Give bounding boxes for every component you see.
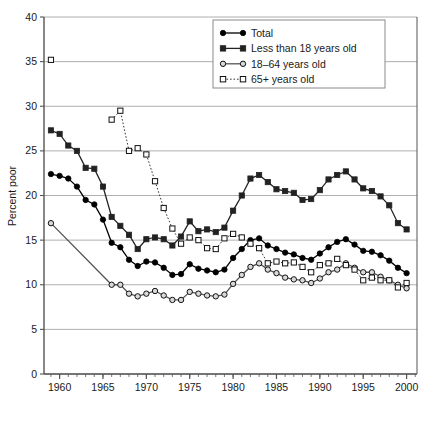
y-tick-label: 5 — [31, 323, 37, 335]
data-point — [135, 263, 140, 268]
x-tick-label: 1970 — [135, 381, 159, 393]
y-tick-label: 10 — [25, 278, 37, 290]
data-point — [187, 262, 192, 267]
data-point — [282, 250, 287, 255]
data-point — [309, 196, 314, 201]
data-point — [161, 205, 166, 210]
data-point — [248, 176, 253, 181]
data-point — [352, 242, 357, 247]
data-point — [309, 270, 314, 275]
data-point — [152, 288, 157, 293]
data-point — [187, 219, 192, 224]
x-tick-label: 1990 — [308, 381, 332, 393]
data-point — [300, 264, 305, 269]
data-point — [326, 261, 331, 266]
data-point — [213, 229, 218, 234]
data-point — [100, 184, 105, 189]
data-point — [291, 190, 296, 195]
x-tick-label: 2000 — [395, 381, 419, 393]
data-point — [326, 270, 331, 275]
y-axis-title: Percent poor — [6, 165, 18, 226]
legend-label: Total — [251, 27, 273, 39]
data-point — [395, 221, 400, 226]
data-point — [170, 226, 175, 231]
data-point — [126, 148, 131, 153]
data-point — [135, 294, 140, 299]
data-point — [231, 208, 236, 213]
data-point — [144, 291, 149, 296]
data-point — [239, 193, 244, 198]
data-point — [178, 297, 183, 302]
y-tick-label: 0 — [31, 368, 37, 380]
data-point — [220, 46, 225, 51]
data-point — [378, 253, 383, 258]
data-point — [395, 285, 400, 290]
legend-label: 65+ years old — [251, 73, 314, 85]
data-point — [144, 237, 149, 242]
data-point — [239, 235, 244, 240]
data-point — [308, 257, 313, 262]
data-point — [308, 280, 313, 285]
data-point — [361, 278, 366, 283]
data-point — [213, 294, 218, 299]
data-point — [126, 232, 131, 237]
data-point — [343, 169, 348, 174]
data-point — [83, 197, 88, 202]
x-tick-label: 1960 — [48, 381, 72, 393]
data-point — [118, 245, 123, 250]
data-point — [283, 188, 288, 193]
data-point — [240, 46, 245, 51]
data-point — [231, 231, 236, 236]
data-point — [144, 259, 149, 264]
data-point — [187, 289, 192, 294]
data-point — [300, 278, 305, 283]
data-point — [369, 275, 374, 280]
data-point — [109, 282, 114, 287]
data-point — [170, 297, 175, 302]
y-tick-label: 30 — [25, 100, 37, 112]
data-point — [109, 214, 114, 219]
data-point — [109, 117, 114, 122]
data-point — [220, 30, 225, 35]
data-point — [335, 256, 340, 261]
data-point — [404, 286, 409, 291]
data-point — [220, 61, 225, 66]
data-point — [83, 165, 88, 170]
data-point — [100, 217, 105, 222]
data-point — [361, 270, 366, 275]
data-point — [265, 267, 270, 272]
data-point — [109, 240, 114, 245]
data-point — [196, 229, 201, 234]
data-point — [352, 267, 357, 272]
data-point — [48, 220, 53, 225]
data-point — [220, 77, 225, 82]
data-point — [395, 265, 400, 270]
data-point — [256, 236, 261, 241]
x-tick-label: 1975 — [178, 381, 202, 393]
data-point — [282, 275, 287, 280]
data-point — [240, 61, 245, 66]
data-point — [274, 270, 279, 275]
data-point — [161, 265, 166, 270]
data-point — [118, 282, 123, 287]
data-point — [369, 249, 374, 254]
legend-label: Less than 18 years old — [251, 42, 357, 54]
data-point — [161, 237, 166, 242]
data-point — [265, 261, 270, 266]
poverty-rate-chart: 196019651970197519801985199019952000 051… — [0, 0, 430, 435]
y-tick-label: 15 — [25, 234, 37, 246]
x-axis-tick-labels: 196019651970197519801985199019952000 — [48, 381, 418, 393]
data-point — [248, 241, 253, 246]
data-point — [240, 77, 245, 82]
data-point — [196, 238, 201, 243]
data-point — [144, 152, 149, 157]
data-point — [248, 264, 253, 269]
data-point — [126, 291, 131, 296]
x-tick-label: 1995 — [352, 381, 376, 393]
data-point — [222, 225, 227, 230]
data-point — [152, 260, 157, 265]
data-point — [257, 172, 262, 177]
data-point — [135, 246, 140, 251]
data-point — [265, 180, 270, 185]
data-point — [196, 266, 201, 271]
